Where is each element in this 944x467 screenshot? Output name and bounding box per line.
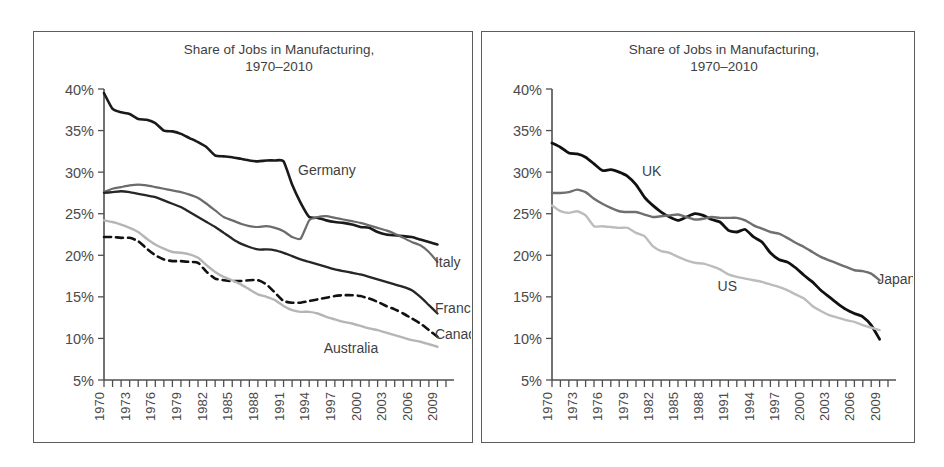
x-tick-label: 2009 bbox=[868, 392, 883, 421]
series-line-germany bbox=[104, 93, 437, 244]
y-tick-label: 30% bbox=[513, 165, 542, 181]
y-tick-label: 30% bbox=[65, 165, 94, 181]
x-tick-label: 1997 bbox=[767, 392, 782, 421]
x-tick-label: 2009 bbox=[425, 392, 440, 421]
y-tick-label: 15% bbox=[513, 289, 542, 305]
x-tick-label: 1994 bbox=[297, 392, 312, 421]
chart-svg-right: Share of Jobs in Manufacturing,1970–2010… bbox=[482, 32, 913, 441]
x-tick-label: 1982 bbox=[641, 392, 656, 421]
x-tick-label: 2000 bbox=[349, 392, 364, 421]
x-tick-label: 1970 bbox=[540, 392, 555, 421]
x-tick-label: 1985 bbox=[666, 392, 681, 421]
x-tick-label: 1979 bbox=[169, 392, 184, 421]
x-tick-label: 1997 bbox=[323, 392, 338, 421]
y-tick-label: 15% bbox=[65, 289, 94, 305]
x-tick-label: 1985 bbox=[220, 392, 235, 421]
x-tick-label: 1973 bbox=[565, 392, 580, 421]
x-tick-label: 1991 bbox=[272, 392, 287, 421]
y-tick-label: 25% bbox=[513, 206, 542, 222]
y-tick-label: 35% bbox=[513, 123, 542, 139]
y-tick-label: 5% bbox=[73, 373, 94, 389]
figure-root: Share of Jobs in Manufacturing,1970–2010… bbox=[0, 0, 944, 467]
chart-panel-right: Share of Jobs in Manufacturing,1970–2010… bbox=[481, 31, 915, 443]
series-label-uk: UK bbox=[642, 163, 662, 179]
series-label-canada: Canada bbox=[435, 326, 471, 342]
x-tick-label: 1979 bbox=[616, 392, 631, 421]
y-tick-label: 5% bbox=[521, 373, 542, 389]
chart-title-line1: Share of Jobs in Manufacturing, bbox=[629, 42, 820, 57]
x-tick-label: 1991 bbox=[716, 392, 731, 421]
x-tick-label: 2006 bbox=[842, 392, 857, 421]
x-tick-label: 2003 bbox=[817, 392, 832, 421]
series-label-france: France bbox=[435, 300, 471, 316]
x-tick-label: 1976 bbox=[590, 392, 605, 421]
x-tick-label: 1994 bbox=[742, 392, 757, 421]
chart-panel-left: Share of Jobs in Manufacturing,1970–2010… bbox=[33, 31, 473, 443]
series-line-canada bbox=[104, 237, 437, 337]
x-tick-label: 2003 bbox=[374, 392, 389, 421]
x-tick-label: 1973 bbox=[118, 392, 133, 421]
series-line-australia bbox=[104, 220, 437, 346]
y-tick-label: 35% bbox=[65, 123, 94, 139]
y-tick-label: 20% bbox=[65, 248, 94, 264]
x-tick-label: 2000 bbox=[792, 392, 807, 421]
x-tick-label: 2006 bbox=[400, 392, 415, 421]
y-tick-label: 20% bbox=[513, 248, 542, 264]
x-tick-label: 1988 bbox=[691, 392, 706, 421]
chart-svg-left: Share of Jobs in Manufacturing,1970–2010… bbox=[34, 32, 471, 441]
series-line-uk bbox=[552, 143, 880, 339]
y-tick-label: 25% bbox=[65, 206, 94, 222]
x-tick-label: 1976 bbox=[143, 392, 158, 421]
x-tick-label: 1988 bbox=[246, 392, 261, 421]
series-label-us: US bbox=[718, 278, 737, 294]
chart-title-line2: 1970–2010 bbox=[690, 59, 758, 74]
y-tick-label: 40% bbox=[65, 82, 94, 98]
series-label-italy: Italy bbox=[435, 254, 461, 270]
y-tick-label: 10% bbox=[65, 331, 94, 347]
x-tick-label: 1970 bbox=[92, 392, 107, 421]
chart-title-line1: Share of Jobs in Manufacturing, bbox=[184, 42, 375, 57]
series-label-australia: Australia bbox=[324, 340, 379, 356]
y-tick-label: 10% bbox=[513, 331, 542, 347]
series-line-us bbox=[552, 205, 880, 330]
y-tick-label: 40% bbox=[513, 82, 542, 98]
series-line-france bbox=[104, 191, 437, 313]
series-label-japan: Japan bbox=[877, 271, 913, 287]
series-label-germany: Germany bbox=[298, 162, 356, 178]
x-tick-label: 1982 bbox=[195, 392, 210, 421]
chart-title-line2: 1970–2010 bbox=[245, 59, 313, 74]
